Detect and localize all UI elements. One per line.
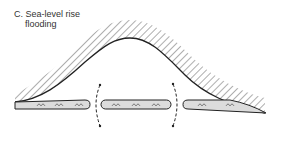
barrier-islands: [15, 100, 266, 113]
island-left: [15, 100, 90, 109]
hatched-water-region: [15, 20, 265, 113]
island-middle: [101, 100, 171, 109]
sea-level-rise-diagram: [0, 0, 282, 141]
breach-arrow-right: [172, 83, 177, 127]
breach-arrow-left: [96, 84, 101, 127]
